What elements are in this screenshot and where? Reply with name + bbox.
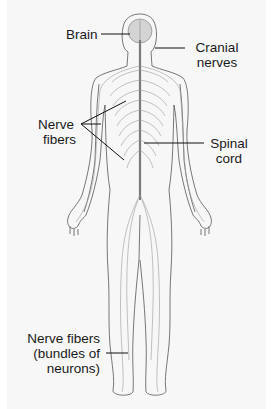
label-cranial-nerves: Cranial nerves (194, 40, 240, 70)
label-nerve-fibers-line1: Nerve (38, 117, 76, 132)
label-nerve-fibers: Nerve fibers (38, 117, 76, 147)
label-cranial-line1: Cranial (194, 40, 240, 55)
label-bundles-line2: (bundles of (26, 346, 100, 361)
label-spinal-cord: Spinal cord (209, 136, 249, 166)
label-spinal-line1: Spinal (209, 136, 249, 151)
label-bundles-of-neurons: Nerve fibers (bundles of neurons) (26, 331, 100, 376)
label-spinal-line2: cord (209, 151, 249, 166)
label-bundles-line3: neurons) (26, 361, 100, 376)
label-nerve-fibers-line2: fibers (38, 132, 76, 147)
label-brain: Brain (66, 27, 98, 42)
label-bundles-line1: Nerve fibers (26, 331, 100, 346)
label-cranial-line2: nerves (194, 55, 240, 70)
